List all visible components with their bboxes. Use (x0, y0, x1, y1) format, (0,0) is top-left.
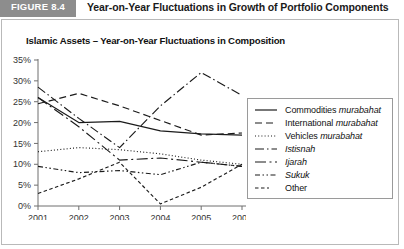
legend-item[interactable]: Ijarah (253, 155, 387, 168)
legend-item-label: Sukuk (285, 170, 310, 180)
series-line (38, 162, 242, 204)
y-axis-tick-label: 10% (13, 159, 31, 169)
y-axis-tick-label: 20% (13, 118, 31, 128)
legend-item-label: Ijarah (285, 157, 307, 167)
figure-number-badge: FIGURE 8.4 (0, 0, 76, 17)
legend-line-swatch (253, 105, 279, 115)
legend-line-swatch (253, 170, 279, 180)
series-line (38, 98, 242, 136)
legend-item[interactable]: Commodities murabahat (253, 103, 387, 116)
legend-item[interactable]: Sukuk (253, 168, 387, 181)
figure-root: FIGURE 8.4 Year-on-Year Fluctuations in … (0, 0, 404, 249)
y-axis-tick-label: 35% (13, 55, 31, 65)
x-axis-tick-label: 2002 (69, 213, 89, 220)
legend-item[interactable]: Vehicles murabahat (253, 129, 387, 142)
legend-line-swatch (253, 157, 279, 167)
x-axis-tick-label: 2005 (191, 213, 211, 220)
legend-item[interactable]: International murabahat (253, 116, 387, 129)
legend-item-label: Other (285, 183, 307, 193)
series-line (38, 93, 242, 135)
legend-line-swatch (253, 118, 279, 128)
legend-item-label: Vehicles murabahat (285, 131, 362, 141)
figure-header-title: Year-on-Year Fluctuations in Growth of P… (76, 1, 389, 13)
series-line (38, 73, 242, 148)
y-axis-tick-label: 5% (18, 180, 31, 190)
y-axis-tick-label: 15% (13, 139, 31, 149)
legend-line-swatch (253, 183, 279, 193)
x-axis-tick-label: 2001 (28, 213, 48, 220)
series-line (38, 148, 242, 165)
y-axis-tick-label: 0% (18, 201, 31, 211)
legend-item[interactable]: Other (253, 181, 387, 194)
chart-title: Islamic Assets – Year-on-Year Fluctuatio… (26, 35, 285, 46)
y-axis-tick-group: 0%5%10%15%20%25%30%35% (13, 55, 38, 211)
legend-item-label: International murabahat (285, 118, 378, 128)
legend-item-label: Istisnah (285, 144, 315, 154)
x-axis-tick-label: 2006 (232, 213, 246, 220)
x-axis-tick-label: 2003 (110, 213, 130, 220)
x-axis-tick-group: 200120022003200420052006 (28, 206, 246, 220)
chart-legend: Commodities murabahatInternational murab… (247, 98, 393, 199)
line-chart-plot: 0%5%10%15%20%25%30%35% 20012002200320042… (6, 54, 246, 220)
y-axis-tick-label: 25% (13, 97, 31, 107)
figure-header: FIGURE 8.4 Year-on-Year Fluctuations in … (0, 0, 404, 17)
legend-item[interactable]: Istisnah (253, 142, 387, 155)
series-line (38, 162, 242, 175)
legend-line-swatch (253, 144, 279, 154)
y-axis-tick-label: 30% (13, 76, 31, 86)
series-line (38, 98, 242, 167)
x-axis-tick-label: 2004 (150, 213, 170, 220)
legend-line-swatch (253, 131, 279, 141)
series-group (38, 73, 242, 204)
legend-item-label: Commodities murabahat (285, 105, 381, 115)
